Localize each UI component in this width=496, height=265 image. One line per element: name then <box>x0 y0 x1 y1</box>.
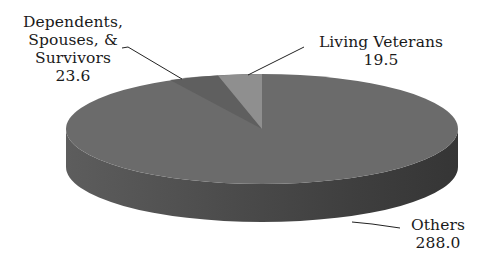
label-living-line1: Living Veterans <box>306 33 456 51</box>
label-dependents-line3: Survivors <box>14 49 132 67</box>
label-dependents: Dependents, Spouses, & Survivors 23.6 <box>14 13 132 85</box>
leader-others <box>352 222 400 228</box>
label-living-veterans: Living Veterans 19.5 <box>306 33 456 69</box>
label-others-value: 288.0 <box>398 234 478 252</box>
label-dependents-line2: Spouses, & <box>14 31 132 49</box>
leader-living <box>248 47 304 75</box>
label-dependents-value: 23.6 <box>14 67 132 85</box>
label-others: Others 288.0 <box>398 216 478 252</box>
label-living-value: 19.5 <box>306 51 456 69</box>
label-dependents-line1: Dependents, <box>14 13 132 31</box>
label-others-line1: Others <box>398 216 478 234</box>
